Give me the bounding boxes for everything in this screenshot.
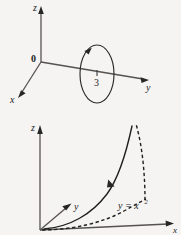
vertical-connector-dashed: [136, 124, 145, 200]
top-y-axis-label: y: [145, 82, 151, 93]
top-z-axis-label: z: [32, 2, 37, 13]
top-x-axis: [18, 62, 41, 98]
top-origin-label: 0: [31, 53, 36, 64]
top-z-axis: [38, 6, 44, 62]
bottom-diagram: y = x 2 z y x: [0, 118, 181, 235]
curve-equation-exponent: 2: [145, 198, 149, 205]
radius-label-3: 3: [94, 77, 99, 88]
bottom-z-axis-label: z: [30, 122, 35, 133]
bottom-z-axis: [37, 125, 43, 230]
bottom-y-axis-label: y: [73, 201, 79, 212]
top-x-axis-label: x: [9, 94, 15, 105]
bottom-y-axis: [40, 204, 72, 231]
bottom-x-axis-label: x: [172, 225, 177, 235]
top-diagram: z y x 0 3: [0, 0, 181, 118]
curve-equation-label: y = x 2: [117, 198, 149, 211]
curve-equation-text: y = x: [117, 200, 139, 211]
figure-canvas: z y x 0 3 y = x 2: [0, 0, 181, 235]
